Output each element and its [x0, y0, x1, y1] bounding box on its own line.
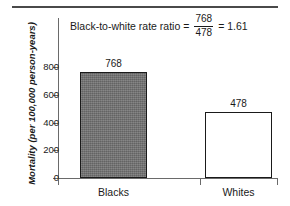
x-category-label-blacks: Blacks [80, 187, 147, 198]
rate-ratio-fraction: 768 478 [194, 14, 213, 38]
y-tick-group-0: 0 [0, 178, 59, 179]
rate-ratio-result: 1.61 [227, 20, 247, 32]
y-tick-label: 0 [13, 173, 59, 183]
rate-ratio-label: Black-to-white rate ratio [70, 20, 180, 32]
y-tick-group-200: 200 [0, 150, 59, 151]
y-tick-group-600: 600 [0, 95, 59, 96]
rate-ratio-equals-second: = [218, 20, 224, 32]
rate-ratio-numerator: 768 [194, 14, 213, 25]
y-tick-label: 600 [13, 90, 59, 100]
x-tick-mark-middle [200, 179, 201, 185]
bar-whites [205, 112, 272, 178]
x-axis-line [58, 178, 278, 179]
figure-container: Black-to-white rate ratio = 768 478 = 1.… [0, 0, 290, 206]
x-tick-mark-right [277, 179, 278, 185]
y-tick-label: 200 [13, 145, 59, 155]
y-tick-group-800: 800 [0, 67, 59, 68]
rate-ratio-denominator: 478 [194, 28, 213, 39]
x-category-label-whites: Whites [205, 187, 272, 198]
rate-ratio-equals-first: = [183, 20, 189, 32]
y-tick-group-400: 400 [0, 123, 59, 124]
bar-value-whites: 478 [205, 99, 272, 109]
x-tick-mark-left [58, 179, 59, 185]
rate-ratio-annotation: Black-to-white rate ratio = 768 478 = 1.… [70, 14, 248, 38]
y-tick-label: 400 [13, 118, 59, 128]
y-axis-title: Mortality (per 100,000 person-years) [26, 19, 37, 189]
y-tick-label: 800 [13, 62, 59, 72]
bar-blacks [80, 72, 147, 178]
bar-value-blacks: 768 [80, 59, 147, 69]
figure-top-rule [12, 6, 278, 8]
